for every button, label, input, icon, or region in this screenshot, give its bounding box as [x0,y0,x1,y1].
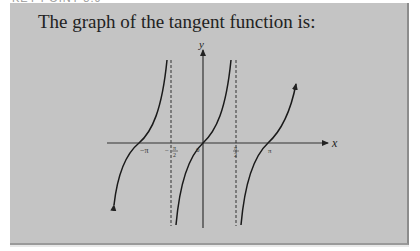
tick-half-pi-num: π [234,145,237,151]
x-axis-label: x [331,136,338,150]
tick-neg-half-pi-num: π [173,145,176,151]
tangent-graph: x y 0 −π π − 2 π 2 π [0,0,420,251]
y-axis-label: y [198,38,204,50]
tick-neg-half-pi-minus: − [165,147,169,155]
tick-half-pi-den: 2 [234,152,237,158]
tan-branch-left [114,60,167,205]
tick-neg-half-pi-den: 2 [173,152,176,158]
origin-label: 0 [196,146,200,154]
tick-pi: π [268,147,272,155]
tick-neg-pi: −π [140,146,149,155]
